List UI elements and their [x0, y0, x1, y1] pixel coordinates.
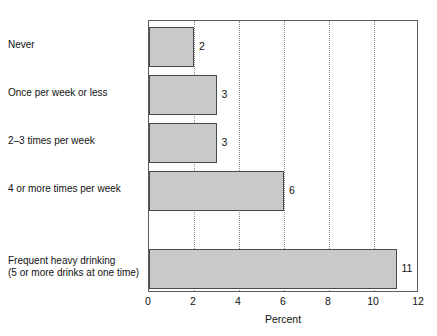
category-label: Never	[8, 39, 144, 51]
category-label-line: (5 or more drinks at one time)	[8, 267, 144, 279]
bar-value-label: 2	[199, 41, 205, 52]
category-label-line: 2–3 times per week	[8, 135, 144, 147]
bar-value-label: 3	[222, 137, 228, 148]
x-axis-title: Percent	[148, 313, 418, 325]
x-axis-tick-label: 8	[316, 295, 340, 307]
bar-value-label: 11	[402, 263, 413, 274]
bar-value-label: 6	[289, 185, 295, 196]
bar-value-label: 3	[222, 89, 228, 100]
x-axis-tick-label: 2	[181, 295, 205, 307]
x-axis-tick-label: 4	[226, 295, 250, 307]
category-label: Once per week or less	[8, 87, 144, 99]
category-label-line: Never	[8, 39, 144, 51]
bar	[149, 123, 217, 163]
category-label-line: 4 or more times per week	[8, 183, 144, 195]
category-label-line: Once per week or less	[8, 87, 144, 99]
category-label-line: Frequent heavy drinking	[8, 255, 144, 267]
category-label: Frequent heavy drinking(5 or more drinks…	[8, 255, 144, 279]
bar	[149, 75, 217, 115]
x-axis-tick-label: 10	[361, 295, 385, 307]
x-axis-tick-label: 6	[271, 295, 295, 307]
x-axis-tick-label: 0	[136, 295, 160, 307]
category-label: 2–3 times per week	[8, 135, 144, 147]
x-axis-tick-label: 12	[406, 295, 430, 307]
category-label: 4 or more times per week	[8, 183, 144, 195]
bar-chart: 2Never3Once per week or less32–3 times p…	[0, 0, 437, 336]
plot-area	[148, 20, 418, 292]
bar	[149, 171, 284, 211]
bar	[149, 27, 194, 67]
bar	[149, 249, 397, 289]
